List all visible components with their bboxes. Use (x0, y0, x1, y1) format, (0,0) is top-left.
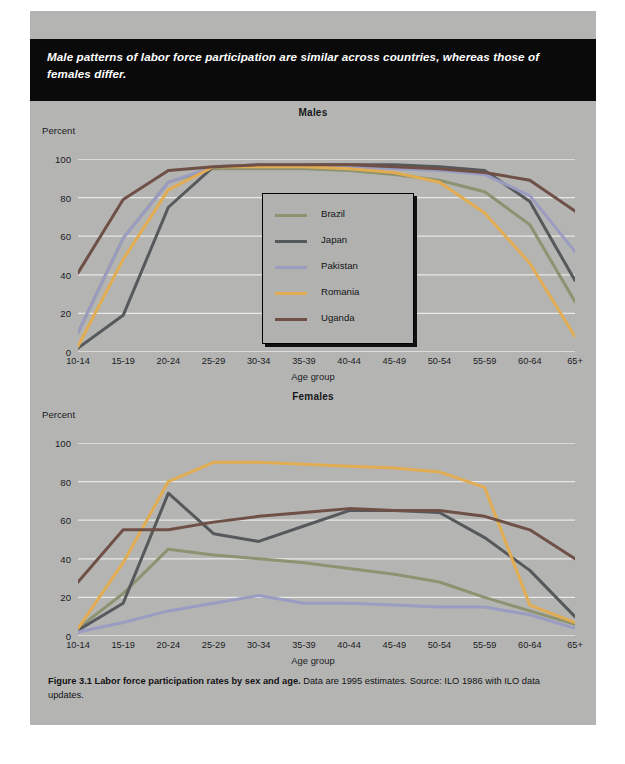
legend-swatch-uganda (275, 318, 307, 321)
x-tick-label: 60-64 (518, 640, 542, 650)
x-tick-label: 10-14 (66, 640, 90, 650)
x-tick-label: 45-49 (383, 356, 407, 366)
y-tick-labels-males: 020406080100 (30, 159, 76, 352)
legend-label-pakistan: Pakistan (321, 260, 358, 271)
x-tick-label: 25-29 (202, 640, 226, 650)
y-tick-label: 100 (55, 438, 71, 449)
x-tick-label: 65+ (567, 640, 583, 650)
x-tick-label: 45-49 (383, 640, 407, 650)
x-tick-label: 55-59 (473, 356, 497, 366)
legend-swatch-japan (275, 240, 307, 243)
y-tick-label: 60 (60, 515, 71, 526)
legend-item-pakistan: Pakistan (275, 260, 405, 274)
x-tick-label: 15-19 (111, 356, 135, 366)
x-tick-label: 50-54 (428, 640, 452, 650)
x-tick-label: 60-64 (518, 356, 542, 366)
caption-bold: Figure 3.1 Labor force participation rat… (48, 676, 301, 686)
y-tick-labels-females: 020406080100 (30, 443, 76, 636)
legend-item-brazil: Brazil (275, 208, 405, 222)
y-tick-label: 100 (55, 154, 71, 165)
legend-label-japan: Japan (321, 234, 347, 245)
x-tick-label: 65+ (567, 356, 583, 366)
headline-band: Male patterns of labor force participati… (30, 39, 596, 101)
y-tick-label: 40 (60, 269, 71, 280)
x-tick-labels-females: 10-1415-1920-2425-2930-3435-3940-4445-49… (78, 640, 575, 656)
x-tick-label: 35-39 (292, 356, 316, 366)
legend: BrazilJapanPakistanRomaniaUganda (262, 193, 414, 344)
y-tick-label: 60 (60, 231, 71, 242)
chart-title-males: Males (30, 107, 596, 118)
legend-swatch-pakistan (275, 266, 307, 269)
y-tick-label: 80 (60, 476, 71, 487)
y-axis-unit-females: Percent (42, 409, 75, 420)
x-axis-title-females: Age group (30, 655, 596, 666)
x-tick-label: 40-44 (337, 640, 361, 650)
y-tick-label: 40 (60, 553, 71, 564)
chart-title-females: Females (30, 391, 596, 402)
x-tick-label: 55-59 (473, 640, 497, 650)
x-axis-title-males: Age group (30, 371, 596, 382)
legend-label-uganda: Uganda (321, 312, 355, 323)
y-tick-label: 80 (60, 192, 71, 203)
legend-swatch-brazil (275, 214, 307, 217)
x-tick-label: 20-24 (157, 640, 181, 650)
x-tick-label: 50-54 (428, 356, 452, 366)
plot-area-females (78, 443, 575, 636)
legend-item-japan: Japan (275, 234, 405, 248)
plot-svg-females (78, 443, 575, 636)
y-tick-label: 20 (60, 592, 71, 603)
figure-caption: Figure 3.1 Labor force participation rat… (48, 675, 576, 702)
x-tick-label: 10-14 (66, 356, 90, 366)
headline-text: Male patterns of labor force participati… (47, 49, 581, 82)
legend-label-brazil: Brazil (321, 208, 345, 219)
x-tick-label: 20-24 (157, 356, 181, 366)
legend-item-uganda: Uganda (275, 312, 405, 326)
x-tick-labels-males: 10-1415-1920-2425-2930-3435-3940-4445-49… (78, 356, 575, 372)
legend-item-romania: Romania (275, 286, 405, 300)
x-tick-label: 15-19 (111, 640, 135, 650)
x-tick-label: 35-39 (292, 640, 316, 650)
x-tick-label: 30-34 (247, 640, 271, 650)
chart-females: Females Percent 020406080100 10-1415-192… (30, 391, 596, 659)
y-axis-unit-males: Percent (42, 125, 75, 136)
y-tick-label: 20 (60, 308, 71, 319)
x-tick-label: 25-29 (202, 356, 226, 366)
x-tick-label: 40-44 (337, 356, 361, 366)
legend-swatch-romania (275, 292, 307, 295)
x-tick-label: 30-34 (247, 356, 271, 366)
figure-panel: Male patterns of labor force participati… (30, 11, 596, 725)
legend-label-romania: Romania (321, 286, 359, 297)
